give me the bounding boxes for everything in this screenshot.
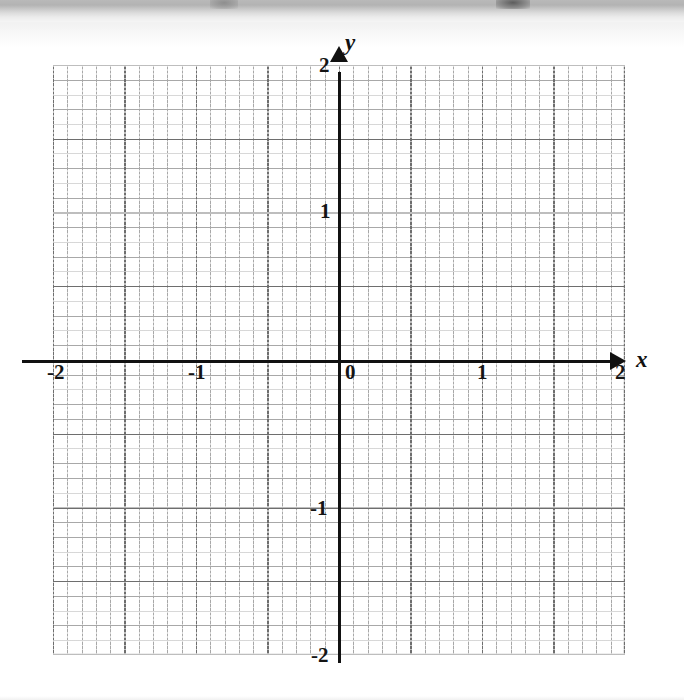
scan-artifact-band xyxy=(0,0,684,30)
scan-smudge-right xyxy=(496,0,530,9)
x-tick-label-neg2: -2 xyxy=(47,362,65,383)
y-axis-line xyxy=(338,72,341,663)
y-tick-label-neg1: -1 xyxy=(310,498,328,519)
origin-label: 0 xyxy=(345,362,356,383)
x-tick-label-2: 2 xyxy=(615,362,626,383)
graph-paper-page: -2 -1 0 1 2 2 1 -1 -2 x y xyxy=(0,0,684,700)
x-axis-name-label: x xyxy=(636,348,648,371)
y-axis-name-label: y xyxy=(345,31,355,54)
x-tick-label-1: 1 xyxy=(477,362,488,383)
x-axis-line xyxy=(22,360,614,363)
scan-haze xyxy=(0,22,684,48)
y-tick-label-2: 2 xyxy=(319,55,330,76)
scan-smudge-left xyxy=(210,0,238,9)
x-tick-label-neg1: -1 xyxy=(188,362,206,383)
y-tick-label-neg2: -2 xyxy=(311,645,329,666)
page-bottom-edge xyxy=(0,696,684,700)
y-tick-label-1: 1 xyxy=(320,201,331,222)
